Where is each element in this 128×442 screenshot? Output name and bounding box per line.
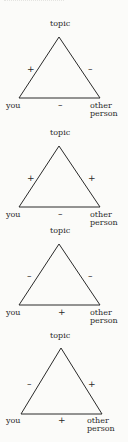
topic-label: topic (50, 227, 70, 235)
other-person-label: otherperson (87, 417, 115, 433)
you-other-sign: – (58, 210, 63, 219)
you-label: you (6, 211, 21, 219)
topic-label: topic (50, 20, 70, 28)
other-label-line2: person (90, 109, 118, 118)
topic-label: topic (50, 129, 70, 137)
you-other-sign: + (58, 308, 66, 317)
cropped-text-fragment (4, 0, 64, 4)
triangle-1: topic you otherperson + – – (0, 20, 128, 128)
other-label-line2: person (90, 316, 118, 325)
you-other-sign: – (58, 101, 63, 110)
triangle-3: topic you otherperson – – + (0, 227, 128, 335)
you-label: you (6, 309, 21, 317)
other-label-line2: person (90, 218, 118, 227)
you-other-sign: + (58, 416, 66, 425)
other-topic-sign: + (88, 174, 96, 183)
you-topic-sign: – (27, 272, 32, 281)
other-label-line2: person (87, 424, 115, 433)
you-label: you (6, 102, 21, 110)
other-topic-sign: + (88, 380, 96, 389)
you-label: you (6, 417, 21, 425)
triangle-4: topic you otherperson – + + (0, 335, 128, 442)
you-topic-sign: + (27, 174, 35, 183)
other-topic-sign: – (88, 65, 93, 74)
topic-label: topic (50, 332, 70, 340)
other-person-label: otherperson (90, 211, 118, 227)
you-topic-sign: + (27, 65, 35, 74)
other-person-label: otherperson (90, 309, 118, 325)
triangle-2: topic you otherperson + + – (0, 129, 128, 237)
you-topic-sign: – (27, 380, 32, 389)
other-topic-sign: – (88, 272, 93, 281)
other-person-label: otherperson (90, 102, 118, 118)
